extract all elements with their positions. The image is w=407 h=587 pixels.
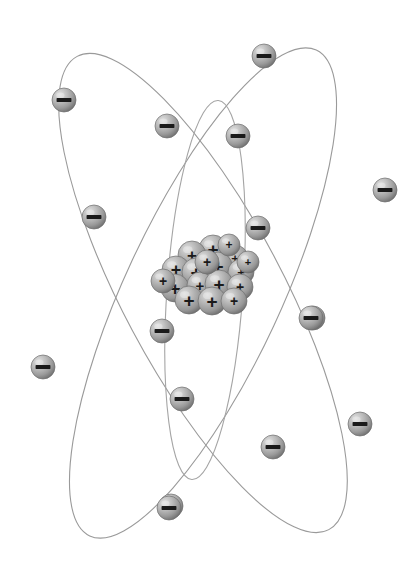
electron xyxy=(252,44,276,68)
electron xyxy=(261,435,285,459)
electron xyxy=(226,124,250,148)
proton-plus-icon: + xyxy=(183,290,194,311)
proton: + xyxy=(218,234,240,256)
proton-plus-icon: + xyxy=(206,291,217,312)
electron xyxy=(31,355,55,379)
electron xyxy=(373,178,397,202)
electron-highlight xyxy=(161,501,169,507)
electron-highlight xyxy=(174,392,182,398)
electron xyxy=(155,114,179,138)
electron-minus-icon xyxy=(155,329,170,333)
proton-plus-icon: + xyxy=(203,254,211,270)
electron-minus-icon xyxy=(87,215,102,219)
electron xyxy=(82,205,106,229)
electron-minus-icon xyxy=(231,134,246,138)
electron-highlight xyxy=(56,93,64,99)
electron-minus-icon xyxy=(378,188,393,192)
electron xyxy=(299,306,323,330)
electron xyxy=(170,387,194,411)
electron xyxy=(157,496,181,520)
atom-canvas: ++++++++++++++++++ xyxy=(0,0,407,587)
electron xyxy=(52,88,76,112)
electron xyxy=(348,412,372,436)
electron-minus-icon xyxy=(160,124,175,128)
proton-plus-icon: + xyxy=(230,293,238,309)
atom-diagram: Atom Diagram Rutherford-Bohr style atom:… xyxy=(0,0,407,587)
electron-highlight xyxy=(154,324,162,330)
electron-minus-icon xyxy=(175,397,190,401)
proton: + xyxy=(221,288,247,314)
proton-plus-icon: + xyxy=(245,256,251,268)
electron-minus-icon xyxy=(57,98,72,102)
proton: + xyxy=(151,269,175,293)
proton: + xyxy=(237,251,259,273)
electron-minus-icon xyxy=(257,54,272,58)
electron-highlight xyxy=(35,360,43,366)
electron-highlight xyxy=(230,129,238,135)
electron-minus-icon xyxy=(266,445,281,449)
proton-plus-icon: + xyxy=(159,273,167,289)
proton: + xyxy=(195,250,219,274)
electron-highlight xyxy=(377,183,385,189)
electron xyxy=(246,216,270,240)
electron-highlight xyxy=(265,440,273,446)
electron-highlight xyxy=(159,119,167,125)
electron xyxy=(150,319,174,343)
electron-highlight xyxy=(303,311,311,317)
electron-minus-icon xyxy=(251,226,266,230)
electron-highlight xyxy=(256,49,264,55)
electron-minus-icon xyxy=(36,365,51,369)
proton-plus-icon: + xyxy=(225,238,232,252)
electron-highlight xyxy=(86,210,94,216)
electron-minus-icon xyxy=(353,422,368,426)
electron-highlight xyxy=(352,417,360,423)
electron-highlight xyxy=(250,221,258,227)
electron-minus-icon xyxy=(162,506,177,510)
electron-minus-icon xyxy=(304,316,319,320)
